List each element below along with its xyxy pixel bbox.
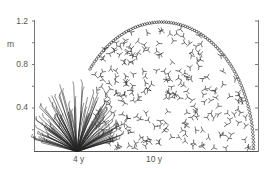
tick-label-0.4: 0.4 [6, 103, 28, 112]
tick-label-1.2: 1.2 [6, 17, 28, 26]
diagram-artwork [0, 0, 269, 169]
height-axis-right [255, 20, 259, 152]
four-year-shrub [32, 79, 124, 151]
height-axis [32, 20, 35, 152]
age-label-10y: 10 y [146, 155, 162, 164]
tick-label-0.8: 0.8 [6, 60, 28, 69]
axis-unit-label: m [7, 40, 14, 49]
age-label-4y: 4 y [73, 155, 84, 164]
growth-diagram: m 1.2 0.8 0.4 4 y 10 y [0, 0, 269, 169]
ten-year-shrub [89, 21, 256, 153]
